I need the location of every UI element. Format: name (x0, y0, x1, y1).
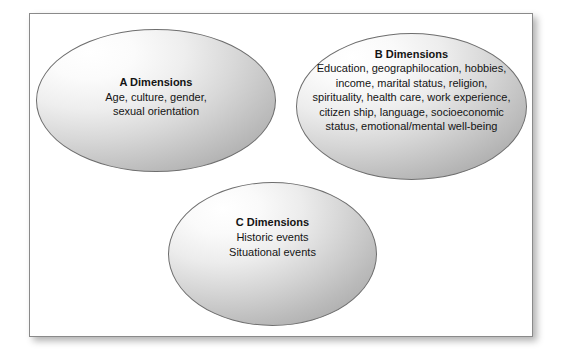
ellipse-c-dimensions: C Dimensions Historic events Situational… (168, 182, 377, 326)
ellipse-a-text-block: A Dimensions Age, culture, gender, sexua… (56, 75, 256, 119)
ellipse-c-line-2: Situational events (183, 245, 363, 260)
ellipse-b-line-1: Education, geographilocation, hobbies, (288, 61, 536, 76)
ellipse-c-title: C Dimensions (183, 215, 363, 229)
ellipse-b-line-3: spirituality, health care, work experien… (288, 90, 536, 105)
ellipse-c-text-block: C Dimensions Historic events Situational… (183, 215, 363, 259)
ellipse-b-line-4: citizen ship, language, socioeconomic (288, 105, 536, 120)
ellipse-b-title: B Dimensions (288, 47, 536, 61)
ellipse-b-text-block: B Dimensions Education, geographilocatio… (288, 47, 536, 134)
ellipse-a-lines: Age, culture, gender, sexual orientation (56, 90, 256, 119)
ellipse-a-line-1: Age, culture, gender, (56, 90, 256, 105)
ellipse-c-lines: Historic events Situational events (183, 230, 363, 259)
ellipse-b-lines: Education, geographilocation, hobbies, i… (288, 61, 536, 134)
ellipse-b-dimensions: B Dimensions Education, geographilocatio… (296, 33, 527, 180)
diagram-frame: A Dimensions Age, culture, gender, sexua… (29, 13, 533, 337)
ellipse-c-line-1: Historic events (183, 230, 363, 245)
ellipse-a-dimensions: A Dimensions Age, culture, gender, sexua… (36, 29, 276, 172)
ellipse-a-title: A Dimensions (56, 75, 256, 89)
ellipse-a-line-2: sexual orientation (56, 104, 256, 119)
ellipse-b-line-2: income, marital status, religion, (288, 76, 536, 91)
ellipse-b-line-5: status, emotional/mental well-being (288, 119, 536, 134)
